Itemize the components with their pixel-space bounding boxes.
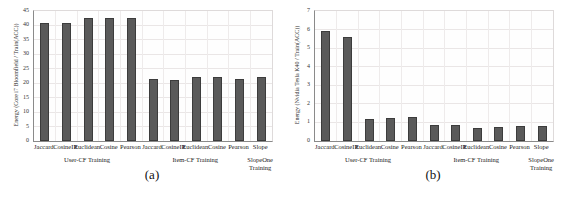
x-tick-label: Jaccard <box>142 143 161 150</box>
group-label: Item-CF Training <box>172 156 218 164</box>
y-tick-label: 5 <box>286 44 310 50</box>
group-label-line: Item-CF Training <box>172 156 218 164</box>
gridline-vertical <box>77 11 78 141</box>
bar-euclidean-2 <box>84 18 93 141</box>
gridline-vertical <box>207 11 208 141</box>
bar-slope-10 <box>538 126 547 141</box>
gridline-vertical <box>142 11 143 141</box>
gridline-vertical <box>488 11 489 141</box>
x-tick-label: Euclidean <box>182 143 208 150</box>
x-tick-label: Pearson <box>509 143 530 150</box>
group-label: SlopeOneTraining <box>528 156 554 172</box>
y-tick-label: 7 <box>286 7 310 13</box>
y-tick-label: 2 <box>286 100 310 106</box>
y-tick-label: 0 <box>286 137 310 143</box>
y-tick-label: 6 <box>286 26 310 32</box>
gridline-vertical <box>379 11 380 141</box>
x-tick-label: Slope <box>534 143 549 150</box>
x-tick-label: Cosine <box>100 143 118 150</box>
group-label-line: Training <box>528 164 554 172</box>
x-tick-label: Jaccard <box>34 143 53 150</box>
gridline-vertical <box>531 11 532 141</box>
group-label-line: User-CF Training <box>64 156 110 164</box>
group-label-line: Training <box>247 164 273 172</box>
bar-jaccard-0 <box>321 31 330 141</box>
gridline-vertical <box>444 11 445 141</box>
gridline-vertical <box>163 11 164 141</box>
y-tick-label: 15 <box>5 94 29 100</box>
plot-area-b <box>314 10 554 142</box>
group-label: User-CF Training <box>345 156 391 164</box>
x-tick-label: Euclidean <box>463 143 489 150</box>
gridline-vertical <box>120 11 121 141</box>
group-label: User-CF Training <box>64 156 110 164</box>
bar-pearson-4 <box>127 18 136 141</box>
gridline-vertical <box>185 11 186 141</box>
x-tick-label: Jaccard <box>315 143 334 150</box>
y-tick-label: 3 <box>286 81 310 87</box>
bar-cosine-8 <box>213 77 222 141</box>
y-tick-label: 30 <box>5 50 29 56</box>
x-tick-label: Euclidean <box>74 143 100 150</box>
bar-jaccard-5 <box>149 79 158 141</box>
y-tick-label: 40 <box>5 21 29 27</box>
x-tick-label: Cosine <box>381 143 399 150</box>
x-tick-label: Pearson <box>401 143 422 150</box>
gridline-vertical <box>509 11 510 141</box>
figure: Energy (Core i7 Bloomfield / Train(ACC))… <box>0 0 561 198</box>
gridline-vertical <box>401 11 402 141</box>
x-tick-label: Pearson <box>228 143 249 150</box>
bar-cosineir-6 <box>451 125 460 141</box>
bar-pearson-9 <box>235 79 244 141</box>
x-tick-label: Jaccard <box>423 143 442 150</box>
gridline-vertical <box>55 11 56 141</box>
gridline-vertical <box>250 11 251 141</box>
subfigure-caption-a: (a) <box>33 167 271 183</box>
gridline-vertical <box>228 11 229 141</box>
bar-cosineir-1 <box>62 23 71 141</box>
y-tick-label: 35 <box>5 36 29 42</box>
group-label-line: Item-CF Training <box>453 156 499 164</box>
y-tick-label: 1 <box>286 118 310 124</box>
group-label: SlopeOneTraining <box>247 156 273 172</box>
gridline-vertical <box>336 11 337 141</box>
subfigure-caption-b: (b) <box>314 167 552 183</box>
group-label-line: User-CF Training <box>345 156 391 164</box>
bar-cosine-3 <box>386 118 395 141</box>
group-label-line: SlopeOne <box>528 156 554 164</box>
bar-euclidean-2 <box>365 119 374 141</box>
plot-area-a <box>33 10 273 142</box>
bar-euclidean-7 <box>473 128 482 141</box>
gridline-vertical <box>358 11 359 141</box>
y-tick-label: 5 <box>5 123 29 129</box>
bar-cosineir-6 <box>170 80 179 141</box>
bar-pearson-9 <box>516 126 525 141</box>
x-tick-label: Cosine <box>489 143 507 150</box>
bar-pearson-4 <box>408 117 417 141</box>
x-tick-label: Cosine <box>208 143 226 150</box>
y-tick-label: 20 <box>5 79 29 85</box>
bar-cosineir-1 <box>343 37 352 141</box>
bar-euclidean-7 <box>192 77 201 141</box>
gridline-vertical <box>98 11 99 141</box>
gridline-horizontal <box>315 29 553 30</box>
group-label-line: SlopeOne <box>247 156 273 164</box>
y-tick-label: 4 <box>286 63 310 69</box>
y-axis-label-b: Energy (Nvidia Tesla K40 / Train(ACC)) <box>294 26 300 125</box>
bar-jaccard-5 <box>430 125 439 141</box>
bar-cosine-8 <box>494 127 503 141</box>
bar-slope-10 <box>257 77 266 141</box>
y-tick-label: 10 <box>5 108 29 114</box>
x-tick-label: Pearson <box>120 143 141 150</box>
bar-jaccard-0 <box>40 23 49 141</box>
y-tick-label: 0 <box>5 137 29 143</box>
x-tick-label: Slope <box>253 143 268 150</box>
y-tick-label: 25 <box>5 65 29 71</box>
y-tick-label: 45 <box>5 7 29 13</box>
gridline-vertical <box>466 11 467 141</box>
gridline-vertical <box>423 11 424 141</box>
chart-panel-a: Energy (Core i7 Bloomfield / Train(ACC))… <box>5 0 277 198</box>
chart-panel-b: Energy (Nvidia Tesla K40 / Train(ACC)) (… <box>286 0 558 198</box>
group-label: Item-CF Training <box>453 156 499 164</box>
x-tick-label: Euclidean <box>355 143 381 150</box>
